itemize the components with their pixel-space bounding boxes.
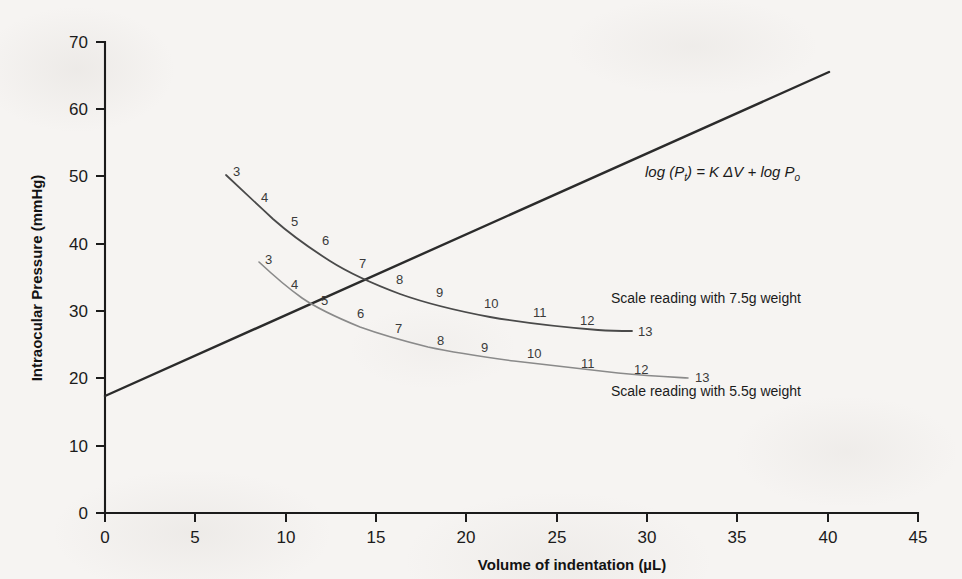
point-label: 10 [527, 346, 541, 361]
point-label: 7 [359, 256, 366, 271]
series-label-7p5g: Scale reading with 7.5g weight [611, 290, 801, 306]
y-axis-title: Intraocular Pressure (mmHg) [28, 175, 45, 382]
x-tick-label: 10 [277, 528, 296, 547]
x-tick-labels: 0 5 10 15 20 25 30 35 40 45 [100, 528, 927, 547]
curve-7p5g-path [226, 175, 632, 331]
x-tick-label: 40 [819, 528, 838, 547]
equation-annotation: log (Pt) = K ΔV + log Po [645, 163, 801, 183]
y-tick-marks [96, 42, 105, 513]
point-label: 13 [638, 324, 652, 339]
chart-figure: 70 60 50 40 30 20 10 0 0 5 10 15 20 25 3… [0, 0, 962, 579]
y-tick-label: 50 [69, 167, 88, 186]
point-label: 8 [396, 272, 403, 287]
x-tick-label: 30 [638, 528, 657, 547]
y-tick-label: 30 [69, 302, 88, 321]
y-tick-label: 10 [69, 437, 88, 456]
friedenwald-line-path [105, 72, 829, 396]
curve-5p5g-point-labels: 3 4 5 6 7 8 9 10 11 12 13 [265, 252, 709, 385]
point-label: 3 [265, 252, 272, 267]
y-tick-label: 70 [69, 33, 88, 52]
y-tick-label: 20 [69, 369, 88, 388]
equation-text: log (Pt) = K ΔV + log Po [645, 163, 801, 183]
point-label: 6 [357, 306, 364, 321]
curve-7p5g-point-labels: 3 4 5 6 7 8 9 10 11 12 13 [233, 164, 652, 339]
curve-5p5g-path [259, 262, 688, 378]
series-5p5g: 3 4 5 6 7 8 9 10 11 12 13 Scale reading … [259, 252, 801, 399]
equation-part-2: ) = K ΔV + log P [685, 163, 795, 180]
point-label: 11 [533, 305, 547, 320]
x-tick-label: 15 [367, 528, 386, 547]
y-tick-label: 0 [79, 504, 88, 523]
point-label: 8 [437, 333, 444, 348]
point-label: 3 [233, 164, 240, 179]
x-tick-label: 5 [190, 528, 199, 547]
x-tick-marks [105, 513, 918, 522]
y-tick-label: 60 [69, 100, 88, 119]
point-label: 12 [580, 313, 594, 328]
point-label: 4 [261, 190, 268, 205]
x-tick-label: 35 [728, 528, 747, 547]
plot-area: 70 60 50 40 30 20 10 0 0 5 10 15 20 25 3… [0, 0, 962, 579]
point-label: 4 [291, 277, 298, 292]
point-label: 9 [481, 340, 488, 355]
point-label: 7 [395, 321, 402, 336]
y-tick-labels: 70 60 50 40 30 20 10 0 [69, 33, 88, 523]
point-label: 5 [321, 293, 328, 308]
series-7p5g: 3 4 5 6 7 8 9 10 11 12 13 Scale reading … [226, 164, 801, 339]
x-axis-title: Volume of indentation (µL) [478, 556, 666, 573]
point-label: 11 [581, 356, 595, 371]
equation-subscript-o: o [795, 172, 801, 183]
point-label: 10 [484, 296, 498, 311]
point-label: 5 [291, 214, 298, 229]
series-friedenwald-line [105, 72, 829, 396]
x-tick-label: 25 [548, 528, 567, 547]
series-label-5p5g: Scale reading with 5.5g weight [611, 383, 801, 399]
equation-part-1: log (P [645, 163, 684, 180]
point-label: 6 [322, 233, 329, 248]
x-tick-label: 20 [457, 528, 476, 547]
point-label: 12 [634, 362, 648, 377]
y-tick-label: 40 [69, 235, 88, 254]
point-label: 9 [436, 285, 443, 300]
x-tick-label: 45 [909, 528, 928, 547]
x-tick-label: 0 [100, 528, 109, 547]
